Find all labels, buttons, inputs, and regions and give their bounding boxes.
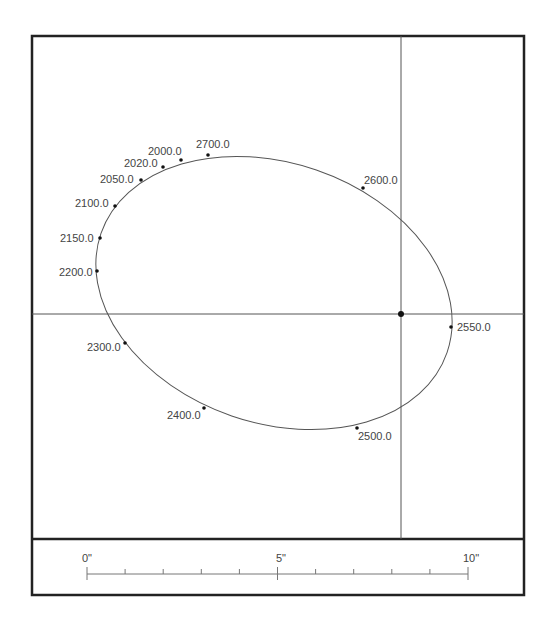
point-label: 2400.0 (167, 409, 201, 421)
scale-label: 5" (276, 552, 286, 564)
data-point: 2020.0 (124, 157, 165, 169)
ellipse-plot-canvas: 2000.02700.02020.02050.02100.02150.02200… (0, 0, 547, 620)
point-label: 2300.0 (87, 341, 121, 353)
data-point: 2550.0 (449, 321, 490, 333)
data-point: 2200.0 (59, 266, 99, 278)
point-label: 2000.0 (148, 145, 182, 157)
point-marker (139, 178, 143, 182)
point-label: 2600.0 (364, 174, 398, 186)
point-label: 2700.0 (196, 138, 230, 150)
point-label: 2150.0 (60, 232, 94, 244)
center-point (398, 311, 404, 317)
point-marker (95, 269, 99, 273)
point-marker (202, 406, 206, 410)
data-points: 2000.02700.02020.02050.02100.02150.02200… (59, 138, 491, 442)
point-marker (361, 186, 365, 190)
point-marker (161, 165, 165, 169)
point-label: 2020.0 (124, 157, 158, 169)
point-marker (449, 325, 453, 329)
point-label: 2100.0 (75, 197, 109, 209)
data-point: 2050.0 (100, 173, 143, 185)
data-point: 2700.0 (196, 138, 230, 157)
outer-frame (32, 36, 524, 595)
point-marker (98, 236, 102, 240)
point-label: 2500.0 (358, 430, 392, 442)
point-label: 2200.0 (59, 266, 93, 278)
data-point: 2100.0 (75, 197, 117, 209)
crosshair (32, 36, 524, 539)
point-label: 2550.0 (457, 321, 491, 333)
point-marker (179, 158, 183, 162)
data-point: 2150.0 (60, 232, 102, 244)
plot-frame (32, 36, 524, 595)
point-marker (113, 204, 117, 208)
point-marker (123, 341, 127, 345)
point-marker (206, 153, 210, 157)
data-point: 2600.0 (361, 174, 397, 190)
point-label: 2050.0 (100, 173, 134, 185)
data-point: 2300.0 (87, 341, 127, 353)
data-point: 2400.0 (167, 406, 206, 421)
scale-label: 0" (82, 552, 92, 564)
scale-label: 10" (463, 552, 479, 564)
data-point: 2500.0 (355, 426, 391, 442)
scale-bar: 0"5"10" (82, 552, 479, 580)
